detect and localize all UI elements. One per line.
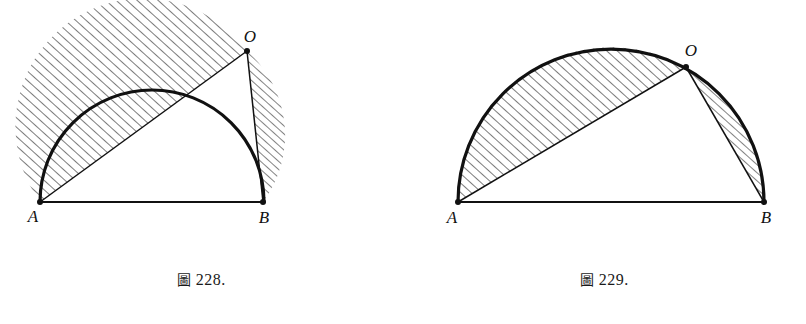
vertex-dot-A [455, 199, 461, 205]
point-label-B: B [259, 208, 270, 227]
point-label-A: A [27, 207, 39, 226]
vertex-dot-B [761, 199, 767, 205]
caption-number: 228. [196, 271, 226, 288]
vertex-dot-A [37, 199, 43, 205]
caption-number: 229. [599, 271, 629, 288]
point-label-A: A [446, 208, 458, 227]
figure-page: A B O 圖228. [0, 0, 806, 324]
vertex-dot-B [260, 199, 266, 205]
figure-caption-229: 圖229. [403, 269, 806, 289]
figure-panel-229: A B O 圖229. [403, 0, 806, 324]
caption-cjk-label: 圖 [177, 272, 192, 288]
chord-line-OB [686, 67, 764, 202]
point-label-B: B [761, 208, 772, 227]
figure-caption-228: 圖228. [0, 269, 403, 289]
figure-panel-228: A B O 圖228. [0, 0, 403, 324]
point-label-O: O [244, 27, 256, 46]
hatched-segment-OB [247, 51, 285, 202]
hatched-segment-AO [15, 0, 247, 202]
hatched-segment-AO [458, 47, 686, 202]
caption-cjk-label: 圖 [580, 272, 595, 288]
vertex-dot-O [683, 64, 689, 70]
point-label-O: O [685, 41, 697, 60]
vertex-dot-O [244, 48, 250, 54]
